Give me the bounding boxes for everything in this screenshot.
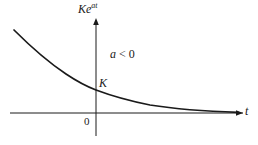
y-axis-label-base: Ke — [78, 2, 91, 16]
origin-label: 0 — [84, 116, 90, 127]
condition-annotation: a < 0 — [110, 48, 135, 60]
y-intercept-label: K — [99, 77, 107, 89]
condition-relation: < 0 — [116, 47, 135, 61]
exponential-decay-curve — [14, 30, 238, 112]
x-axis-label: t — [245, 105, 248, 117]
y-axis-arrow-icon — [93, 18, 99, 25]
figure-canvas — [0, 0, 258, 145]
y-axis-label-exponent: at — [91, 1, 97, 10]
y-axis-label: Keat — [78, 2, 98, 15]
exponential-decay-figure: Keat a < 0 K 0 t — [0, 0, 258, 145]
